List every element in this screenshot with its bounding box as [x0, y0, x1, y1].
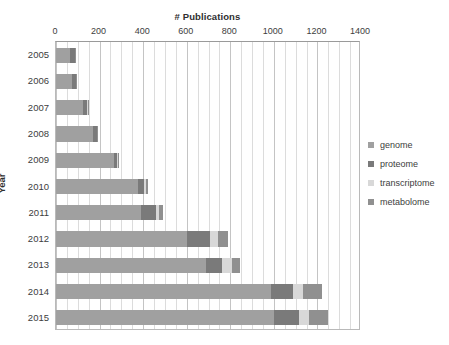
y-axis-tick-label: 2015	[28, 311, 49, 322]
bar-segment-metabolome	[303, 284, 322, 299]
bar-row	[56, 284, 359, 299]
x-axis-tick-label: 1200	[306, 26, 326, 36]
x-axis-tick-label: 0	[52, 26, 57, 36]
legend-swatch-icon	[368, 142, 374, 148]
x-axis-tick-label: 1000	[263, 26, 283, 36]
bar-segment-proteome	[141, 205, 156, 220]
y-axis-tick-label: 2009	[28, 154, 49, 165]
y-axis-tick-label: 2011	[29, 206, 49, 217]
y-axis-tick-label-group: 2005200620072008200920102011201220132014…	[0, 41, 53, 330]
bar-row	[56, 126, 359, 141]
y-axis-tick-label: 2010	[28, 180, 49, 191]
bar-segment-genome	[56, 126, 93, 141]
bar-row	[56, 74, 359, 89]
bar-group	[56, 42, 359, 329]
legend-label: metabolome	[380, 197, 430, 207]
bar-segment-genome	[56, 179, 138, 194]
bar-segment-metabolome	[76, 74, 77, 89]
bar-segment-metabolome	[118, 153, 119, 168]
legend-label: genome	[380, 140, 413, 150]
y-axis-tick-label: 2012	[28, 233, 49, 244]
bar-row	[56, 310, 359, 325]
chart-title: # Publications	[55, 11, 360, 22]
bar-row	[56, 48, 359, 63]
bar-segment-metabolome	[97, 126, 98, 141]
legend-item[interactable]: proteome	[368, 155, 448, 172]
bar-segment-metabolome	[88, 100, 89, 115]
bar-row	[56, 231, 359, 246]
x-axis-tick-label-group: 0200400600800100012001400	[0, 26, 449, 38]
legend-label: transcriptome	[380, 178, 435, 188]
y-axis-tick-label: 2014	[28, 285, 49, 296]
bar-segment-transcriptome	[210, 231, 219, 246]
bar-segment-genome	[56, 284, 271, 299]
bar-segment-genome	[56, 153, 114, 168]
legend: genomeproteometranscriptomemetabolome	[368, 136, 448, 212]
bar-segment-transcriptome	[293, 284, 303, 299]
bar-segment-transcriptome	[222, 258, 233, 273]
bar-segment-proteome	[274, 310, 299, 325]
y-axis-title: Year	[0, 173, 7, 193]
x-axis-tick-label: 1400	[350, 26, 370, 36]
bar-segment-metabolome	[218, 231, 228, 246]
bar-segment-metabolome	[232, 258, 240, 273]
y-axis-tick-label: 2008	[28, 127, 49, 138]
bar-segment-proteome	[271, 284, 294, 299]
bar-row	[56, 205, 359, 220]
legend-item[interactable]: transcriptome	[368, 174, 448, 191]
bar-segment-genome	[56, 205, 141, 220]
bar-segment-proteome	[206, 258, 221, 273]
legend-item[interactable]: genome	[368, 136, 448, 153]
bar-row	[56, 153, 359, 168]
y-axis-tick-label: 2005	[28, 49, 49, 60]
bar-segment-metabolome	[75, 48, 76, 63]
legend-label: proteome	[380, 159, 418, 169]
x-axis-tick-label: 800	[222, 26, 237, 36]
bar-row	[56, 179, 359, 194]
bar-segment-proteome	[187, 231, 210, 246]
bar-segment-genome	[56, 258, 206, 273]
x-axis-tick-label: 400	[135, 26, 150, 36]
legend-swatch-icon	[368, 199, 374, 205]
bar-segment-transcriptome	[299, 310, 309, 325]
bar-segment-genome	[56, 74, 72, 89]
bar-row	[56, 258, 359, 273]
bar-segment-metabolome	[146, 179, 148, 194]
y-axis-tick-label: 2006	[28, 75, 49, 86]
plot-area	[55, 41, 360, 330]
bar-segment-genome	[56, 100, 83, 115]
x-axis-tick-label: 600	[178, 26, 193, 36]
y-axis-tick-label: 2013	[28, 259, 49, 270]
bar-segment-metabolome	[309, 310, 329, 325]
bar-segment-genome	[56, 231, 187, 246]
bar-segment-genome	[56, 310, 274, 325]
bar-row	[56, 100, 359, 115]
legend-swatch-icon	[368, 180, 374, 186]
legend-item[interactable]: metabolome	[368, 193, 448, 210]
legend-swatch-icon	[368, 161, 374, 167]
y-axis-tick-label: 2007	[28, 101, 49, 112]
x-axis-tick-label: 200	[91, 26, 106, 36]
bar-segment-metabolome	[159, 205, 163, 220]
publications-stacked-bar-chart: # Publications 0200400600800100012001400…	[0, 0, 449, 345]
bar-segment-genome	[56, 48, 70, 63]
